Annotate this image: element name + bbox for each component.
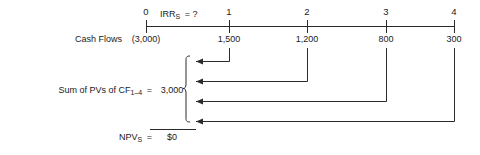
discount-arrow-period-1 (196, 48, 230, 64)
discount-arrow-period-3 (196, 48, 387, 104)
cash-flow-timeline-diagram: 0 1 2 3 4 IRRS = ? Cash Flows Sum of PVs… (0, 0, 480, 155)
diagram-linework (0, 0, 480, 155)
discount-arrow-period-4 (196, 48, 455, 124)
arrowhead-period-2 (196, 79, 203, 85)
grouping-brace (183, 56, 190, 122)
arrowhead-period-1 (196, 59, 203, 65)
arrowhead-period-4 (196, 119, 203, 125)
discount-arrow-period-2 (196, 48, 308, 84)
arrowhead-period-3 (196, 99, 203, 105)
